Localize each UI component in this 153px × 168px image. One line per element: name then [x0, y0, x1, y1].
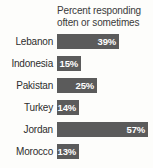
bar-value-lebanon: 39% — [98, 34, 116, 49]
category-label-lebanon: Lebanon — [0, 35, 53, 48]
bar-value-morocco: 13% — [58, 144, 76, 159]
bar-row: Morocco 13% — [0, 143, 153, 165]
bar-track-turkey: 14% — [57, 100, 153, 115]
bar-track-morocco: 13% — [57, 144, 153, 159]
category-label-jordan: Jordan — [0, 123, 53, 136]
category-label-turkey: Turkey — [0, 101, 53, 114]
chart-title-line-2: often or sometimes — [57, 17, 153, 29]
bar-rows: Lebanon 39% Indonesia 15% Pakistan 25% — [0, 33, 153, 165]
bar-track-pakistan: 25% — [57, 78, 153, 93]
bar-row: Turkey 14% — [0, 99, 153, 121]
bar-row: Lebanon 39% — [0, 33, 153, 55]
bar-row: Indonesia 15% — [0, 55, 153, 77]
bar-value-pakistan: 25% — [76, 78, 94, 93]
bar-track-lebanon: 39% — [57, 34, 153, 49]
bar-fill-lebanon: 39% — [57, 34, 119, 49]
category-label-morocco: Morocco — [0, 145, 53, 158]
category-label-pakistan: Pakistan — [0, 79, 53, 92]
bar-fill-pakistan: 25% — [57, 78, 97, 93]
chart-title-line-1: Percent responding — [57, 5, 153, 17]
category-label-indonesia: Indonesia — [0, 57, 53, 70]
bar-chart: Percent responding often or sometimes Le… — [0, 0, 153, 168]
bar-value-turkey: 14% — [58, 100, 76, 115]
bar-fill-jordan: 57% — [57, 122, 148, 137]
bar-track-indonesia: 15% — [57, 56, 153, 71]
bar-fill-turkey: 14% — [57, 100, 79, 115]
bar-row: Jordan 57% — [0, 121, 153, 143]
bar-value-jordan: 57% — [127, 122, 145, 137]
bar-track-jordan: 57% — [57, 122, 153, 137]
chart-title: Percent responding often or sometimes — [57, 5, 153, 29]
bar-row: Pakistan 25% — [0, 77, 153, 99]
bar-fill-indonesia: 15% — [57, 56, 81, 71]
bar-value-indonesia: 15% — [60, 56, 78, 71]
bar-fill-morocco: 13% — [57, 144, 79, 159]
